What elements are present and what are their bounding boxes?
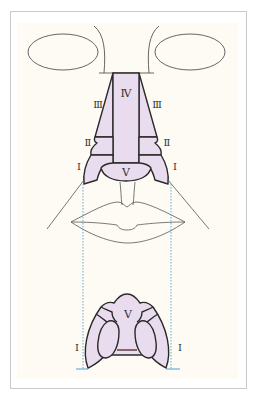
nose-basal-view — [85, 294, 168, 368]
left-philtral-column — [120, 182, 122, 205]
right-brow-line — [148, 26, 159, 73]
nasal-subunits-diagram: Ⅳ Ⅲ Ⅲ Ⅱ Ⅱ Ⅰ Ⅰ Ⅴ Ⅴ Ⅰ Ⅰ — [0, 0, 253, 399]
right-philtral-column — [133, 182, 135, 205]
right-soft-triangle-subunit — [139, 137, 161, 155]
label-right-ala: Ⅰ — [173, 161, 177, 172]
basal-label-left-ala: Ⅰ — [75, 342, 79, 353]
label-dorsum: Ⅳ — [121, 87, 133, 100]
right-nasolabial-fold — [168, 180, 209, 229]
left-brow-line — [94, 26, 105, 73]
left-nasolabial-fold — [47, 180, 84, 229]
label-left-sidewall: Ⅲ — [93, 99, 103, 110]
upper-lip-outline — [71, 202, 185, 222]
left-eye-outline — [28, 34, 98, 70]
basal-outline — [85, 294, 168, 368]
basal-label-tip: Ⅴ — [123, 308, 133, 321]
label-right-soft-triangle: Ⅱ — [164, 137, 171, 148]
left-soft-triangle-subunit — [91, 137, 113, 155]
label-right-sidewall: Ⅲ — [152, 99, 162, 110]
lower-lip-outline — [71, 222, 185, 243]
lip-line — [71, 222, 185, 230]
label-tip: Ⅴ — [121, 166, 131, 179]
right-eye-outline — [155, 34, 225, 70]
basal-label-right-ala: Ⅰ — [178, 342, 182, 353]
lips — [71, 202, 185, 243]
label-left-ala: Ⅰ — [77, 161, 81, 172]
label-left-soft-triangle: Ⅱ — [85, 137, 92, 148]
